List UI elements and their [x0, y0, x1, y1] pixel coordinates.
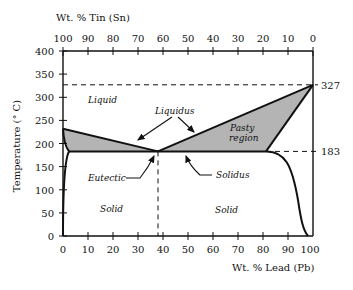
x-tick-label: 80: [257, 244, 270, 255]
label-solid-right: Solid: [215, 205, 238, 215]
x-tick-label: 90: [282, 244, 295, 255]
solidus-arrow: [186, 156, 212, 175]
bottom-axis-title: Wt. % Lead (Pb): [232, 262, 314, 273]
y-tick-label: 100: [35, 185, 54, 196]
y-tick-label: 400: [35, 46, 54, 57]
y-tick-label: 250: [35, 115, 54, 126]
top-tick-label: 40: [207, 33, 220, 44]
x-tick-label: 70: [232, 244, 245, 255]
eutectic-arrow: [126, 156, 154, 178]
phase-diagram-chart: Wt. % Tin (Sn) 100 90 80 70 60 50 40 30 …: [0, 0, 353, 290]
top-tick-label: 20: [257, 33, 270, 44]
top-tick-label: 0: [310, 33, 316, 44]
top-tick-label: 100: [53, 33, 72, 44]
liquidus-arrow-right: [178, 117, 194, 132]
y-tick-label: 350: [35, 69, 54, 80]
y-axis-title: Temperature (° C): [11, 100, 22, 192]
y-tick-label: 150: [35, 162, 54, 173]
label-solidus: Solidus: [216, 170, 250, 180]
x-tick-label: 30: [132, 244, 145, 255]
label-solid-left: Solid: [100, 204, 123, 214]
top-tick-label: 80: [107, 33, 120, 44]
solvus-line-right: [266, 151, 308, 236]
label-liquid: Liquid: [87, 95, 117, 105]
ref-label-327: 327: [321, 80, 340, 91]
label-liquidus: Liquidus: [154, 106, 195, 116]
y-tick-label: 50: [41, 208, 54, 219]
solvus-line-left: [63, 151, 69, 236]
x-tick-label: 60: [207, 244, 220, 255]
top-axis-title: Wt. % Tin (Sn): [56, 12, 130, 23]
label-pasty-1: Pasty: [229, 123, 255, 133]
x-tick-label: 0: [60, 244, 66, 255]
liquidus-arrow-left: [138, 117, 172, 140]
x-tick-label: 10: [82, 244, 95, 255]
top-tick-label: 10: [282, 33, 295, 44]
top-tick-label: 50: [182, 33, 195, 44]
x-tick-label: 20: [107, 244, 120, 255]
top-axis-tick-labels: 100 90 80 70 60 50 40 30 20 10 0: [53, 33, 316, 44]
top-tick-label: 60: [157, 33, 170, 44]
y-tick-label: 300: [35, 92, 54, 103]
ref-label-183: 183: [321, 146, 340, 157]
x-tick-label: 40: [157, 244, 170, 255]
label-pasty-2: region: [229, 133, 259, 143]
top-tick-label: 70: [132, 33, 145, 44]
bottom-axis-tick-labels: 0 10 20 30 40 50 60 70 80 90 100: [60, 244, 320, 255]
y-tick-label: 0: [48, 231, 54, 242]
y-tick-label: 200: [35, 139, 54, 150]
x-tick-label: 50: [182, 244, 195, 255]
top-tick-label: 30: [232, 33, 245, 44]
x-tick-label: 100: [300, 244, 319, 255]
top-tick-label: 90: [82, 33, 95, 44]
left-axis-tick-labels: 400 350 300 250 200 150 100 50 0: [35, 46, 54, 242]
label-eutectic: Eutectic: [87, 173, 126, 183]
